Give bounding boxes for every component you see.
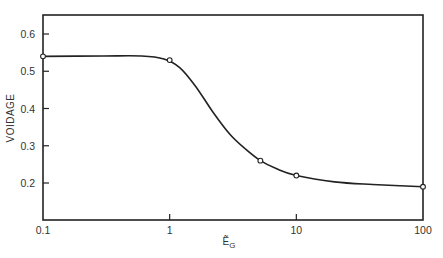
voidage-curve <box>43 56 423 187</box>
data-point <box>294 173 299 178</box>
x-axis-title: ẼG <box>223 235 236 250</box>
y-tick-label: 0.5 <box>20 65 35 77</box>
data-point <box>258 158 263 163</box>
x-tick-label: 100 <box>414 224 432 236</box>
chart: 0.20.30.40.50.6 0.1110100 VOIDAGE ẼG <box>0 0 443 258</box>
data-point <box>167 58 172 63</box>
y-tick-label: 0.4 <box>20 103 35 115</box>
y-tick-label: 0.3 <box>20 140 35 152</box>
x-tick-label: 1 <box>167 224 173 236</box>
x-tick-label: 0.1 <box>36 224 51 236</box>
plot-frame <box>43 15 423 220</box>
data-point <box>421 184 426 189</box>
x-tick-label: 10 <box>290 224 302 236</box>
y-axis-title: VOIDAGE <box>5 93 16 142</box>
y-tick-label: 0.2 <box>20 177 35 189</box>
data-point <box>41 54 46 59</box>
y-tick-label: 0.6 <box>20 28 35 40</box>
